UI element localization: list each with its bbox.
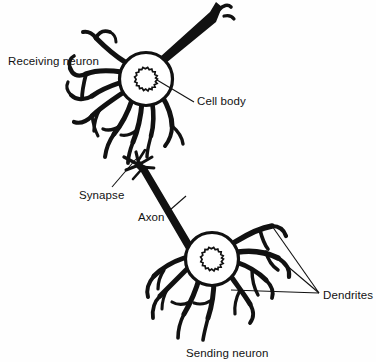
sending-neuron-soma — [186, 233, 239, 286]
label-dendrites: Dendrites — [323, 290, 373, 302]
label-sending-neuron: Sending neuron — [186, 348, 269, 360]
axon-leader-line — [170, 196, 186, 210]
label-receiving-neuron: Receiving neuron — [8, 56, 99, 68]
sending-neuron-axon — [136, 163, 197, 256]
label-axon: Axon — [138, 212, 165, 224]
label-synapse: Synapse — [79, 190, 124, 202]
synapse-leader-line — [112, 159, 136, 187]
receiving-neuron-soma — [120, 53, 173, 106]
label-cell-body: Cell body — [197, 96, 246, 108]
neuron-diagram: Receiving neuron Cell body Synapse Axon … — [0, 0, 376, 362]
